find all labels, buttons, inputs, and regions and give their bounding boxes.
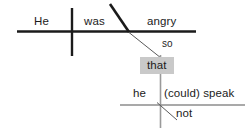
word-subject-he: He [34, 15, 49, 27]
predicate-adjective-slant [110, 4, 129, 32]
word-predicate-adjective-angry: angry [147, 15, 176, 27]
word-verb-was: was [84, 15, 105, 27]
word-modifier-so: so [162, 38, 173, 50]
word-adverb-not: not [176, 107, 192, 119]
word-subordinate-subject-he: he [133, 87, 146, 99]
so-modifier-line [129, 33, 161, 59]
word-conjunction-that: that [140, 57, 174, 74]
word-subordinate-verb-could-speak: (could) speak [164, 87, 234, 99]
sentence-diagram: He was angry so that he (could) speak no… [0, 0, 252, 136]
